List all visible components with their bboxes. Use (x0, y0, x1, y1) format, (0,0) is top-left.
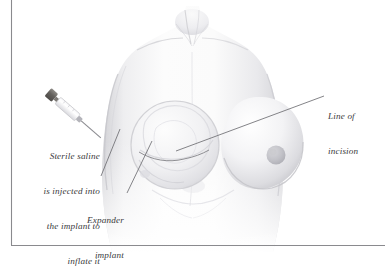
injection-port (140, 170, 150, 178)
expander-line-1: Expander (52, 215, 124, 227)
line-of-incision-label: Line of incision (328, 88, 383, 181)
incision-line-2: incision (328, 146, 383, 158)
expander-implant-group (131, 101, 219, 189)
saline-line-1: Sterile saline (14, 151, 100, 163)
expander-implant-label: Expander implant (52, 192, 124, 270)
incision-line-1: Line of (328, 111, 383, 123)
expander-line-2: implant (52, 250, 124, 262)
nipple-highlight (270, 149, 277, 155)
nipple-areola (267, 146, 286, 165)
neck-base (175, 9, 209, 35)
